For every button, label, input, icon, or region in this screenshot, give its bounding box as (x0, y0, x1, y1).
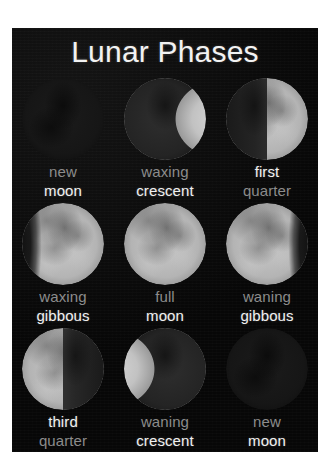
moon-third-quarter-icon (22, 328, 104, 410)
phase-label-line2: quarter (216, 181, 318, 200)
moon-holder (226, 203, 308, 285)
phase-label-line2: moon (114, 306, 216, 325)
moon-surface (22, 78, 104, 160)
moon-waning-gibbous-icon (226, 203, 308, 285)
moon-holder (124, 78, 206, 160)
phase-label-line2: crescent (114, 181, 216, 200)
moon-surface (124, 203, 206, 285)
moon-waxing-gibbous-icon (22, 203, 104, 285)
phase-cell-first-quarter: first quarter (216, 78, 318, 202)
page-title: Lunar Phases (12, 34, 318, 70)
moon-shadow (226, 78, 267, 160)
phase-label-line1: waning (114, 412, 216, 431)
phase-label-line1: new (216, 412, 318, 431)
phase-row-1: new moon waxing crescent (12, 78, 318, 202)
moon-shadow (63, 328, 104, 410)
moon-first-quarter-icon (226, 78, 308, 160)
phase-label-line1: waxing (114, 162, 216, 181)
phase-label-line2: gibbous (12, 306, 114, 325)
phase-label-line1: third (12, 412, 114, 431)
phase-row-2: waxing gibbous full moon (12, 203, 318, 327)
phase-label-line2: quarter (12, 431, 114, 450)
moon-terminator (124, 328, 206, 410)
poster-canvas: Lunar Phases new moon (0, 0, 330, 464)
lunar-phases-poster: Lunar Phases new moon (12, 28, 318, 452)
moon-terminator (22, 203, 104, 285)
moon-new-icon (22, 78, 104, 160)
moon-waxing-crescent-icon (124, 78, 206, 160)
phase-cell-waning-gibbous: waning gibbous (216, 203, 318, 327)
phase-label-line2: moon (216, 431, 318, 450)
moon-holder (22, 78, 104, 160)
phase-label-line1: new (12, 162, 114, 181)
moon-holder (22, 203, 104, 285)
phase-cell-waning-crescent: waning crescent (114, 328, 216, 452)
phase-label-line1: waning (216, 287, 318, 306)
phase-label-line2: gibbous (216, 306, 318, 325)
phase-label-line2: crescent (114, 431, 216, 450)
phase-row-3: third quarter waning crescent (12, 328, 318, 452)
phase-cell-waxing-crescent: waxing crescent (114, 78, 216, 202)
phase-label-line1: first (216, 162, 318, 181)
phase-cell-new-moon-2: new moon (216, 328, 318, 452)
moon-surface (226, 328, 308, 410)
phase-label-line1: waxing (12, 287, 114, 306)
moon-terminator (226, 203, 308, 285)
moon-terminator (124, 78, 206, 160)
phase-cell-new-moon: new moon (12, 78, 114, 202)
phase-cell-full-moon: full moon (114, 203, 216, 327)
moon-waning-crescent-icon (124, 328, 206, 410)
phase-label-line1: full (114, 287, 216, 306)
moon-full-icon (124, 203, 206, 285)
moon-holder (226, 78, 308, 160)
moon-new-icon (226, 328, 308, 410)
moon-holder (226, 328, 308, 410)
phases-grid: new moon waxing crescent (12, 78, 318, 452)
phase-cell-waxing-gibbous: waxing gibbous (12, 203, 114, 327)
moon-holder (124, 328, 206, 410)
moon-holder (124, 203, 206, 285)
phase-cell-third-quarter: third quarter (12, 328, 114, 452)
phase-label-line2: moon (12, 181, 114, 200)
moon-holder (22, 328, 104, 410)
